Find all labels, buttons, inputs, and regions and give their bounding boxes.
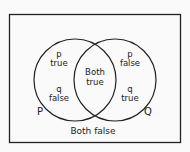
q-only-p-value: false [120,59,140,68]
both-false-label: Both false [70,127,115,136]
both-true-line2: true [86,78,103,87]
set-label-p: P [37,106,43,117]
set-label-q: Q [144,106,152,117]
p-only-p-value: true [50,59,67,68]
q-only-q-value: true [121,94,138,103]
both-true-line1: Both [85,68,105,77]
p-only-q-value: false [49,94,69,103]
